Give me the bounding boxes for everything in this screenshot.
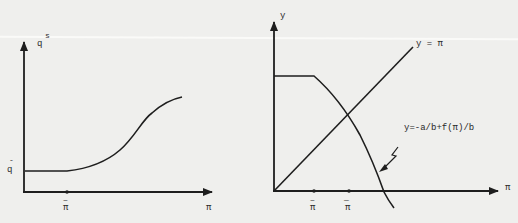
right-x-axis-label: π xyxy=(505,183,511,193)
left-y-axis-label: q xyxy=(37,39,42,49)
pi-tilde-accent: ~ xyxy=(63,196,68,205)
tick-pi-bar-dot xyxy=(347,189,351,193)
right-panel: y y = π y=-a/b+f(π)/b π ~ π — π xyxy=(273,11,511,213)
tick-pi-tilde-dot xyxy=(312,189,316,193)
line-label-y-equals-pi: y = π xyxy=(416,39,444,49)
pi-bar-label: π xyxy=(345,203,351,213)
left-panel: q s q - π ~ π xyxy=(7,31,212,213)
q-bar-label: q xyxy=(7,165,12,175)
figure-canvas: q s q - π ~ π y y = π y=-a/b+f(π)/b π ~ … xyxy=(0,0,518,223)
left-y-axis-superscript: s xyxy=(45,31,50,40)
right-y-axis-label: y xyxy=(280,11,286,21)
curve-y-f-pi xyxy=(274,76,394,208)
pi-tilde-accent-right: ~ xyxy=(310,196,315,205)
left-tick-dot xyxy=(65,190,69,194)
curve-label: y=-a/b+f(π)/b xyxy=(404,123,474,133)
pi-bar-accent: — xyxy=(343,195,349,204)
lightning-arrow-icon xyxy=(379,147,398,172)
left-x-axis-label: π xyxy=(206,203,212,213)
supply-curve xyxy=(25,97,182,171)
q-bar-accent: - xyxy=(9,155,14,164)
line-y-equals-pi xyxy=(274,47,413,191)
